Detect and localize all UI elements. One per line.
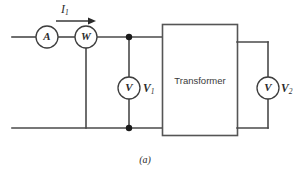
current-1-label: I1 (60, 2, 69, 17)
voltmeter-1-name: V1 (143, 82, 154, 96)
figure-caption: (a) (139, 154, 151, 166)
voltmeter-2-name: V2 (281, 82, 293, 96)
junction-dot-primary-bottom (126, 125, 132, 131)
voltmeter-2-name-subscript: 2 (289, 87, 293, 96)
current-1-label-subscript: 1 (65, 8, 69, 17)
ammeter-label: A (42, 30, 50, 42)
wattmeter-label: W (81, 30, 92, 42)
current-1-arrow-head-icon (88, 18, 96, 25)
transformer-label: Transformer (174, 75, 225, 86)
voltmeter-1-name-subscript: 1 (151, 87, 155, 96)
circuit-schematic-canvas: Transformer A W V V1 V V2 (0, 0, 300, 172)
circuit-diagram-figure: Transformer A W V V1 V V2 (0, 0, 300, 172)
junction-dot-primary-top (126, 34, 132, 40)
